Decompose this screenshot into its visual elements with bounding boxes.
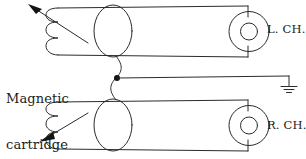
left-channel-group [28,4,269,57]
left-channel-body-bottom-edge [58,55,248,57]
right-channel-magnet-ellipse [94,99,132,151]
left-channel-magnet-ellipse [94,5,132,57]
left-channel-flux-arrow-shaft [34,8,88,43]
magnetic-cartridge-label-line2: cartridge [6,137,69,152]
left-channel-body-top-edge [58,6,248,8]
right-channel-transducer-outer [229,106,269,146]
right-channel-group [39,99,269,151]
ground-wire-horizontal [117,76,289,78]
ground-wiring-group [111,56,297,100]
left-channel-label: L. CH. [267,23,306,37]
left-channel-lead-wire [116,56,121,78]
left-channel-coil [46,8,58,55]
left-channel-transducer-inner [241,23,258,40]
right-channel-body-top-edge [58,100,248,102]
magnetic-cartridge-label-line1: Magnetic [6,91,69,106]
left-channel-transducer-outer [229,12,269,52]
right-channel-lead-wire [111,78,116,100]
left-channel-flux-arrowhead [28,4,42,14]
right-channel-body-bottom-edge [58,149,248,151]
right-channel-label: R. CH. [267,119,306,133]
magnetic-cartridge-label: Magnetic cartridge [6,60,69,159]
diagram-canvas: Magnetic cartridge L. CH. R. CH. [0,0,306,159]
right-channel-transducer-inner [241,117,258,134]
